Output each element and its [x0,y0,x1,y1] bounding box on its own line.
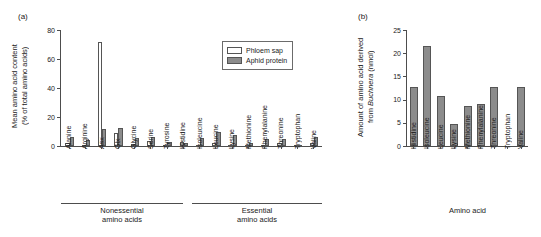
x-tick-mark [507,146,508,149]
panel-b-letter: (b) [358,12,368,21]
x-tick-mark [467,146,468,149]
x-tick-mark [521,146,522,149]
x-category-label: Phenylalanine [477,105,484,149]
y-tick-label: 60 [43,56,55,63]
x-category-label: Isoleucine [423,117,430,149]
x-tick-mark [480,146,481,149]
group-label-essential: Essential amino acids [192,206,322,224]
bracket-essential [192,203,322,204]
panel-b-y-axis-title-2: from Buchnera (nmol) [366,26,375,148]
legend-item-phloem-sap: Phloem sap [227,46,287,55]
bracket-nonessential [61,203,183,204]
y-tick-mark [403,76,406,77]
legend-item-aphid-protein: Aphid protein [227,56,287,65]
x-category-label: Tryptophan [504,114,511,149]
panel-b-y-axis-title-line1: Amount of amino acid derived [356,37,365,136]
panel-b: (b) Amount of amino acid derived from Bu… [352,0,541,237]
legend-label-phloem-sap: Phloem sap [246,47,283,54]
y-tick-label: 20 [390,50,401,57]
x-category-label: Histidine [179,122,186,149]
panel-a-letter: (a) [18,12,28,21]
group-label-nonessential-line2: amino acids [102,215,142,224]
x-tick-mark [494,146,495,149]
y-tick-label: 0 [43,143,55,150]
panel-a: (a) Mean amino acid content (% of total … [0,0,340,237]
y-tick-label: 15 [390,73,401,80]
panel-a-y-axis-title-2: (% of total amino acids) [20,26,29,146]
x-tick-mark [118,146,119,149]
panel-a-y-axis-title-line2: (% of total amino acids) [20,47,29,125]
x-tick-mark [297,146,298,149]
x-category-label: Methionine [464,115,471,149]
x-tick-mark [427,146,428,149]
x-category-label: Isoleucine [196,117,203,149]
x-tick-mark [232,146,233,149]
x-tick-mark [313,146,314,149]
group-label-essential-line2: amino acids [237,215,277,224]
panel-a-y-axis-title: Mean amino acid content [10,26,19,146]
x-tick-mark [281,146,282,149]
x-tick-mark [69,146,70,149]
y-tick-mark [57,88,60,89]
y-tick-label: 80 [43,27,55,34]
legend-swatch-phloem-sap [227,47,242,54]
x-category-label: Tryptophan [294,114,301,149]
group-label-nonessential-line1: Nonessential [100,206,143,215]
y-tick-mark [403,53,406,54]
x-category-label: Threonine [277,117,284,149]
y-tick-mark [403,30,406,31]
y-tick-mark [57,30,60,31]
x-tick-mark [167,146,168,149]
group-label-nonessential: Nonessential amino acids [61,206,183,224]
legend-label-aphid-protein: Aphid protein [246,57,287,64]
x-tick-mark [248,146,249,149]
x-tick-mark [413,146,414,149]
x-tick-mark [454,146,455,149]
x-tick-mark [215,146,216,149]
x-tick-mark [134,146,135,149]
x-category-label: Threonine [490,117,497,149]
panel-a-y-axis-title-line1: Mean amino acid content [10,44,19,128]
y-tick-mark [57,117,60,118]
x-tick-mark [440,146,441,149]
panel-b-y-axis-title-line2-pre: from [366,106,375,123]
y-tick-mark [403,100,406,101]
panel-a-legend: Phloem sap Aphid protein [222,41,293,70]
x-tick-mark [150,146,151,149]
panel-b-y-axis-title: Amount of amino acid derived [356,26,365,148]
x-tick-mark [199,146,200,149]
y-tick-mark [403,146,406,147]
x-category-label: Methionine [245,115,252,149]
x-category-label: Histidine [410,122,417,149]
y-tick-label: 20 [43,114,55,121]
x-category-label: Phenylalanine [261,105,268,149]
panel-b-y-axis-title-line2-post: (nmol) [366,51,375,74]
panel-b-x-axis-title: Amino acid [407,206,528,215]
x-tick-mark [101,146,102,149]
y-tick-label: 10 [390,96,401,103]
figure-root: (a) Mean amino acid content (% of total … [0,0,541,237]
panel-b-y-axis-title-line2-italic: Buchnera [366,74,375,106]
group-label-essential-line1: Essential [242,206,272,215]
y-tick-label: 5 [390,119,401,126]
y-tick-mark [57,59,60,60]
y-tick-mark [403,123,406,124]
x-tick-mark [264,146,265,149]
legend-swatch-aphid-protein [227,57,242,64]
y-tick-label: 40 [43,85,55,92]
x-tick-mark [85,146,86,149]
y-tick-mark [57,146,60,147]
y-tick-label: 0 [390,143,401,150]
y-tick-label: 25 [390,27,401,34]
x-tick-mark [183,146,184,149]
